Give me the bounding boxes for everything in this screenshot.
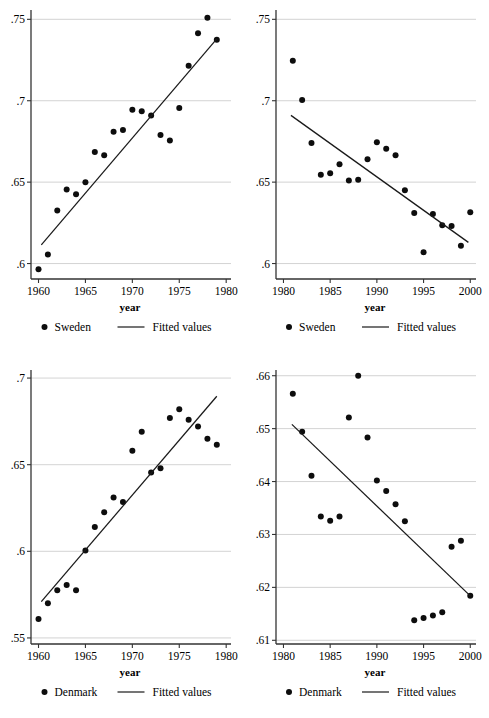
legend-marker-points (286, 689, 292, 695)
y-tick-label-0: .55 (11, 632, 26, 644)
data-point-series (290, 373, 473, 623)
data-point (129, 107, 135, 113)
data-point (308, 473, 314, 479)
chart-panel-denmark-1960-1979: .55.6.65.719601965197019751980yearDenmar… (0, 360, 245, 718)
fitted-line (291, 115, 468, 242)
x-tick-label-1: 1985 (319, 285, 342, 297)
x-tick-label-1: 1965 (74, 650, 97, 662)
data-point (45, 252, 51, 258)
data-point (383, 488, 389, 494)
x-tick-label-4: 2000 (459, 650, 482, 662)
legend-marker-points (42, 324, 48, 330)
data-point (383, 146, 389, 152)
y-tick-label-2: .63 (256, 528, 271, 540)
fitted-line (41, 39, 216, 245)
x-axis: 19601965197019751980year (27, 644, 238, 678)
data-point (73, 587, 79, 593)
legend-marker-points (42, 689, 48, 695)
y-tick-label-3: .7 (16, 372, 25, 384)
data-point (195, 424, 201, 430)
data-point (129, 448, 135, 454)
legend-label-country: Denmark (299, 686, 342, 698)
chart-panel-sweden-1960-1979: .6.65.7.7519601965197019751980yearSweden… (0, 0, 245, 345)
data-point (92, 524, 98, 530)
y-tick-label-2: .65 (11, 459, 26, 471)
y-tick-label-3: .75 (11, 13, 26, 25)
y-tick-label-1: .6 (16, 545, 25, 557)
data-point (139, 108, 145, 114)
data-point (204, 436, 210, 442)
data-point (365, 156, 371, 162)
x-tick-label-2: 1970 (121, 285, 144, 297)
data-point (214, 442, 220, 448)
y-tick-label-2: .7 (261, 95, 270, 107)
data-point (411, 617, 417, 623)
y-tick-label-4: .65 (256, 423, 271, 435)
data-point (346, 178, 352, 184)
legend-label-country: Sweden (55, 321, 92, 333)
y-tick-label-5: .66 (256, 370, 271, 382)
data-point (111, 129, 117, 135)
data-point (458, 243, 464, 249)
x-axis-label: year (120, 301, 141, 313)
legend: SwedenFitted values (286, 321, 457, 333)
figure-panel-grid: .6.65.7.7519601965197019751980yearSweden… (0, 0, 489, 718)
data-point (318, 513, 324, 519)
legend-label-fitted: Fitted values (153, 321, 213, 333)
x-tick-label-0: 1980 (272, 285, 295, 297)
y-axis: .6.65.7.75 (256, 10, 276, 279)
data-point (290, 391, 296, 397)
chart-panel-sweden-1981-2000: .6.65.7.7519801985199019952000yearSweden… (245, 0, 489, 345)
gridlines (276, 376, 476, 641)
data-point (467, 209, 473, 215)
x-tick-label-3: 1975 (168, 650, 191, 662)
data-point (318, 172, 324, 178)
data-point (421, 249, 427, 255)
data-point (101, 509, 107, 515)
chart-panel-denmark-1981-2000: .61.62.63.64.65.6619801985199019952000ye… (245, 360, 489, 718)
data-point (204, 15, 210, 21)
fitted-line-series (291, 115, 468, 242)
x-axis: 19801985199019952000year (272, 279, 482, 313)
data-point (158, 132, 164, 138)
data-point (158, 465, 164, 471)
data-point (337, 161, 343, 167)
x-tick-label-2: 1990 (365, 650, 388, 662)
data-point (167, 415, 173, 421)
y-tick-label-1: .62 (256, 581, 271, 593)
x-tick-label-1: 1985 (319, 650, 342, 662)
data-point (374, 477, 380, 483)
data-point (365, 435, 371, 441)
legend-marker-points (286, 324, 292, 330)
gridlines (31, 378, 231, 638)
data-point (92, 149, 98, 155)
y-tick-label-3: .64 (256, 476, 271, 488)
data-point (458, 538, 464, 544)
y-axis: .6.65.7.75 (11, 10, 31, 279)
x-tick-label-4: 1980 (215, 285, 238, 297)
data-point (195, 30, 201, 36)
data-point (355, 177, 361, 183)
data-point (402, 518, 408, 524)
data-point (45, 600, 51, 606)
data-point (176, 406, 182, 412)
fitted-line (41, 396, 216, 601)
data-point (402, 187, 408, 193)
data-point (120, 127, 126, 133)
data-point-series (36, 406, 220, 622)
data-point (82, 179, 88, 185)
fitted-line-series (292, 424, 470, 595)
legend-label-fitted: Fitted values (397, 686, 457, 698)
legend-label-country: Denmark (55, 686, 98, 698)
x-axis: 19801985199019952000year (272, 644, 482, 678)
legend-label-fitted: Fitted values (153, 686, 213, 698)
data-point (36, 266, 42, 272)
x-tick-label-2: 1990 (365, 285, 388, 297)
data-point (186, 63, 192, 69)
data-point (430, 612, 436, 618)
x-tick-label-4: 2000 (459, 285, 482, 297)
legend: DenmarkFitted values (42, 686, 213, 698)
data-point (393, 501, 399, 507)
data-point (176, 105, 182, 111)
x-tick-label-3: 1995 (412, 650, 435, 662)
